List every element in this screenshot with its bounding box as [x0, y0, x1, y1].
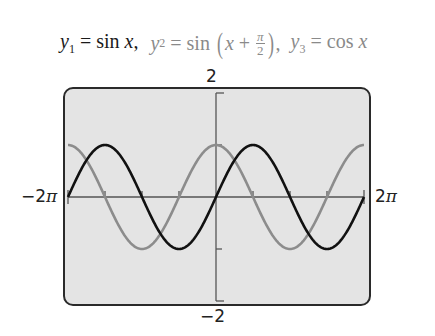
- pi-symbol: π: [386, 186, 397, 206]
- x-max-value: 2: [375, 186, 386, 206]
- pi-symbol: π: [46, 186, 57, 206]
- y-min-label: −2: [200, 306, 225, 326]
- graph-screen: [0, 0, 435, 336]
- x-min-value: −2: [21, 186, 46, 206]
- x-min-label: −2π: [21, 186, 57, 206]
- y-max-label: 2: [206, 66, 217, 86]
- x-max-label: 2π: [375, 186, 397, 206]
